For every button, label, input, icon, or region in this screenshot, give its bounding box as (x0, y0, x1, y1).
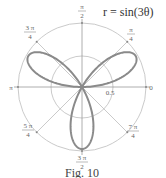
label-7pi-over-4-num: 7 π (129, 123, 138, 131)
label-3pi-over-2-num: 3 π (78, 154, 87, 162)
label-5pi-over-4-num: 5 π (24, 122, 33, 130)
label-3pi-over-4-den: 4 (28, 33, 32, 41)
spoke-5pi-4 (37, 87, 82, 132)
label-pi-over-4-num: π (129, 26, 133, 34)
spoke-3pi-4 (37, 42, 82, 87)
figure-caption: Fig. 10 (65, 166, 99, 178)
label-pi: π (9, 84, 13, 92)
label-zero: 0 (149, 84, 153, 92)
label-pi-over-2-den: 2 (80, 12, 84, 20)
polar-chart: r = sin(3θ) π 2 π 4 3 π 4 π 0 0.5 5 π 4 … (0, 0, 166, 178)
label-7pi-over-4-den: 4 (131, 132, 135, 140)
label-3pi-over-4-num: 3 π (26, 24, 35, 32)
label-pi-over-2-num: π (80, 3, 84, 11)
spoke-pi-4 (82, 42, 127, 87)
equation-label: r = sin(3θ) (103, 5, 154, 19)
radial-tick-label: 0.5 (106, 89, 115, 97)
label-5pi-over-4-den: 4 (26, 131, 30, 139)
label-pi-over-4-den: 4 (129, 35, 133, 43)
